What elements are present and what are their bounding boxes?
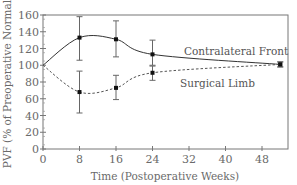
x-tick-label: 24 xyxy=(146,153,160,166)
x-tick-label: 16 xyxy=(109,153,123,166)
data-point-marker xyxy=(151,52,155,56)
legend-contralateral-front: Contralateral Front xyxy=(184,45,289,57)
y-tick-label: 160 xyxy=(18,9,39,22)
x-tick-label: 0 xyxy=(40,153,47,166)
y-tick-label: 100 xyxy=(18,59,39,72)
data-point-marker xyxy=(114,86,118,90)
y-tick-label: 140 xyxy=(18,26,39,39)
series-group xyxy=(43,17,283,113)
y-tick-label: 60 xyxy=(25,93,39,106)
data-point-marker xyxy=(278,62,282,66)
y-tick-label: 40 xyxy=(25,110,39,123)
data-point-marker xyxy=(78,36,82,40)
legend-surgical-limb: Surgical Limb xyxy=(180,77,255,89)
y-tick-label: 20 xyxy=(25,126,39,139)
y-tick-label: 80 xyxy=(25,76,39,89)
x-tick-label: 32 xyxy=(182,153,196,166)
x-tick-label: 40 xyxy=(219,153,233,166)
x-axis-title: Time (Postoperative Weeks) xyxy=(91,170,239,182)
y-tick-label: 0 xyxy=(32,143,39,156)
y-tick-label: 120 xyxy=(18,43,39,56)
x-tick-label: 48 xyxy=(255,153,269,166)
x-tick-label: 8 xyxy=(76,153,83,166)
y-axis-title: PVF (% of Preoperative Normal) xyxy=(1,0,13,168)
chart-canvas: 020406080100120140160 081624324048 Contr… xyxy=(0,0,297,185)
y-axis: 020406080100120140160 xyxy=(18,9,46,156)
pvf-line-chart: 020406080100120140160 081624324048 Contr… xyxy=(0,0,297,185)
data-point-marker xyxy=(78,90,82,94)
data-point-marker xyxy=(151,71,155,75)
data-point-marker xyxy=(114,37,118,41)
